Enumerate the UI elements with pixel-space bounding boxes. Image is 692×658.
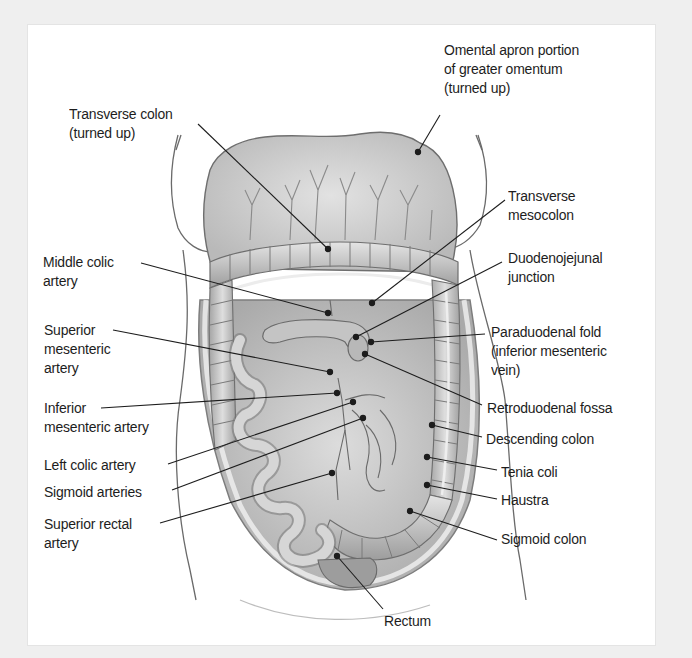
label-sigmoid-arteries: Sigmoid arteries — [44, 482, 142, 501]
label-line: Sigmoid arteries — [44, 482, 142, 501]
label-paraduodenal-fold: Paraduodenal fold (inferior mesenteric v… — [491, 322, 607, 379]
label-superior-rectal-artery: Superior rectal artery — [44, 514, 132, 552]
label-line: mesenteric artery — [44, 417, 149, 436]
label-line: junction — [508, 267, 602, 286]
label-superior-mesenteric-artery: Superior mesenteric artery — [44, 320, 110, 377]
label-retroduodenal-fossa: Retroduodenal fossa — [487, 398, 612, 417]
label-left-colic-artery: Left colic artery — [44, 455, 136, 474]
label-line: Tenia coli — [501, 462, 557, 481]
label-haustra: Haustra — [501, 490, 549, 509]
label-line: Duodenojejunal — [508, 248, 602, 267]
label-line: mesocolon — [508, 205, 575, 224]
label-line: Superior — [44, 320, 110, 339]
label-duodenojejunal-junction: Duodenojejunal junction — [508, 248, 602, 286]
label-line: Inferior — [44, 398, 149, 417]
label-line: Paraduodenal fold — [491, 322, 607, 341]
label-rectum: Rectum — [384, 611, 431, 630]
label-line: (turned up) — [69, 123, 173, 142]
label-sigmoid-colon: Sigmoid colon — [501, 529, 586, 548]
label-line: artery — [43, 271, 114, 290]
label-line: Rectum — [384, 611, 431, 630]
label-transverse-mesocolon: Transverse mesocolon — [508, 186, 575, 224]
label-line: Transverse colon — [69, 104, 173, 123]
label-transverse-colon: Transverse colon (turned up) — [69, 104, 173, 142]
descending-colon — [430, 280, 460, 500]
label-omental-apron: Omental apron portion of greater omentum… — [444, 40, 579, 97]
label-line: Haustra — [501, 490, 549, 509]
label-line: Retroduodenal fossa — [487, 398, 612, 417]
label-line: Descending colon — [486, 429, 594, 448]
label-line: artery — [44, 358, 110, 377]
label-line: Left colic artery — [44, 455, 136, 474]
label-line: Superior rectal — [44, 514, 132, 533]
label-descending-colon: Descending colon — [486, 429, 594, 448]
label-line: artery — [44, 533, 132, 552]
label-line: (inferior mesenteric — [491, 341, 607, 360]
label-line: mesenteric — [44, 339, 110, 358]
label-line: Middle colic — [43, 252, 114, 271]
label-line: Sigmoid colon — [501, 529, 586, 548]
label-middle-colic-artery: Middle colic artery — [43, 252, 114, 290]
label-inferior-mesenteric-artery: Inferior mesenteric artery — [44, 398, 149, 436]
label-line: (turned up) — [444, 78, 579, 97]
label-line: Omental apron portion — [444, 40, 579, 59]
label-line: of greater omentum — [444, 59, 579, 78]
label-line: vein) — [491, 360, 607, 379]
label-line: Transverse — [508, 186, 575, 205]
label-tenia-coli: Tenia coli — [501, 462, 557, 481]
